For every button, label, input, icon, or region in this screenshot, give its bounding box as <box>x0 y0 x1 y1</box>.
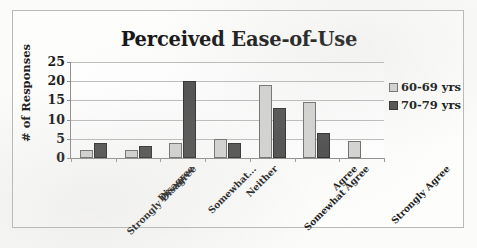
legend-swatch-icon <box>389 101 398 110</box>
bar <box>169 143 182 158</box>
bar <box>80 150 93 158</box>
legend-swatch-icon <box>389 83 398 92</box>
y-axis-line <box>70 62 71 159</box>
bar-group <box>214 62 241 158</box>
bar-group <box>125 62 152 158</box>
y-tick-label-15: 15 <box>19 92 65 107</box>
x-axis-label: Strongly Agree <box>388 163 451 226</box>
bar <box>228 143 241 158</box>
x-axis-label: Somewhat Agree <box>302 163 372 233</box>
bar <box>139 146 152 158</box>
legend-item[interactable]: 70-79 yrs <box>389 96 463 114</box>
chart-legend: 60-69 yrs70-79 yrs <box>389 78 463 114</box>
legend-item[interactable]: 60-69 yrs <box>389 78 463 96</box>
legend-label: 70-79 yrs <box>401 98 461 112</box>
y-tick-label-10: 10 <box>19 112 65 127</box>
bar <box>259 85 272 158</box>
bar-group <box>259 62 286 158</box>
y-tick-mark-15 <box>67 100 71 101</box>
bar <box>303 102 316 158</box>
y-tick-mark-25 <box>67 62 71 63</box>
bar <box>273 108 286 158</box>
bar <box>94 143 107 158</box>
y-tick-label-20: 20 <box>19 73 65 88</box>
chart-frame: Perceived Ease-of-Use # of Responses 051… <box>12 10 464 228</box>
y-tick-mark-10 <box>67 120 71 121</box>
bar <box>348 141 361 158</box>
bar <box>317 133 330 158</box>
bar <box>183 81 196 158</box>
x-tick-mark <box>384 158 385 162</box>
y-axis-tick-labels: 0510152025 <box>19 62 65 158</box>
chart-figure: Perceived Ease-of-Use # of Responses 051… <box>0 0 477 248</box>
bar-group <box>169 62 196 158</box>
bar-group <box>348 62 375 158</box>
legend-label: 60-69 yrs <box>401 80 461 94</box>
y-tick-mark-5 <box>67 139 71 140</box>
y-tick-label-0: 0 <box>19 150 65 165</box>
y-tick-label-5: 5 <box>19 131 65 146</box>
y-tick-label-25: 25 <box>19 54 65 69</box>
bar <box>125 150 138 158</box>
plot-area <box>71 62 384 158</box>
bar <box>214 139 227 158</box>
bar-group <box>303 62 330 158</box>
bar-group <box>80 62 107 158</box>
chart-title: Perceived Ease-of-Use <box>13 28 465 51</box>
y-tick-mark-20 <box>67 81 71 82</box>
x-axis-label: Disagree <box>156 163 196 203</box>
x-axis-category-labels: Strongly DisagreeDisagreeSomewhat...Neit… <box>71 159 384 231</box>
